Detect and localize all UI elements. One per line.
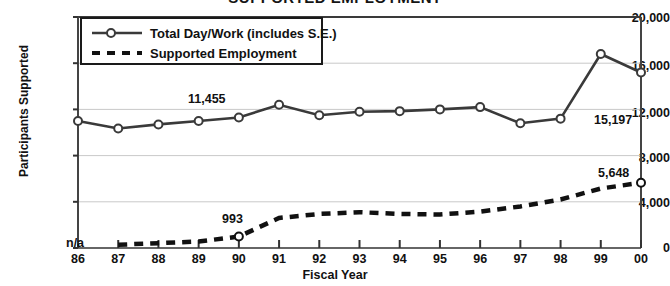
legend: Total Day/Work (includes S.E.) Supported… — [80, 17, 323, 65]
annotation-na: n/a — [66, 236, 84, 250]
legend-dashed-line-icon — [90, 46, 144, 60]
series-supported-employment — [118, 183, 641, 245]
legend-label-supported-employment: Supported Employment — [150, 46, 297, 61]
legend-line-circle-marker-icon — [90, 26, 144, 40]
annotation-993: 993 — [222, 212, 243, 226]
legend-item-supported-employment[interactable]: Supported Employment — [90, 43, 297, 63]
annotation-5648: 5,648 — [598, 166, 629, 180]
annotation-15197: 15,197 — [594, 113, 632, 127]
annotation-11455: 11,455 — [188, 92, 226, 106]
legend-label-total-day-work: Total Day/Work (includes S.E.) — [150, 26, 337, 41]
legend-item-total-day-work[interactable]: Total Day/Work (includes S.E.) — [90, 23, 337, 43]
supported-employment-chart: SUPPORTED EMPLOYMENT Participants Suppor… — [0, 0, 670, 286]
x-tick-marks — [78, 240, 641, 248]
